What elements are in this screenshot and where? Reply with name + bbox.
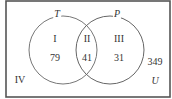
- region-iii-count: 31: [114, 53, 124, 63]
- circle-t: [29, 16, 97, 84]
- universe-label: U: [151, 76, 158, 86]
- set-label-p: P: [113, 9, 121, 19]
- circle-p: [76, 16, 144, 84]
- region-ii-label: II: [84, 34, 91, 44]
- universe-rectangle: [6, 1, 170, 97]
- region-i-label: I: [53, 34, 56, 44]
- region-iv-count: 349: [148, 57, 163, 67]
- region-iv-label: IV: [15, 75, 26, 85]
- set-label-t: T: [53, 9, 61, 19]
- region-i-count: 79: [50, 53, 60, 63]
- region-ii-count: 41: [82, 53, 92, 63]
- venn-diagram: [0, 0, 172, 99]
- region-iii-label: III: [114, 34, 124, 44]
